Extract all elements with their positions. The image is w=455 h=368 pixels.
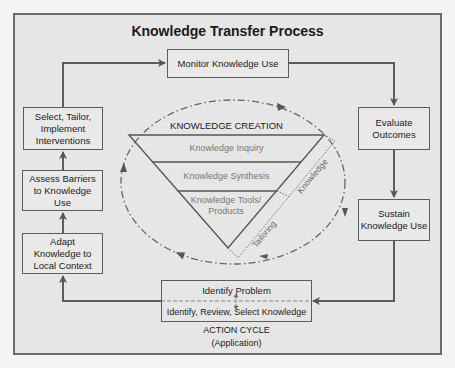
diagram-title: Knowledge Transfer Process <box>0 23 455 39</box>
assess-barriers-box: Assess Barriers to Knowledge Use <box>22 170 103 211</box>
sustain-knowledge-box: Sustain Knowledge Use <box>358 199 430 241</box>
action-cycle-sublabel: (Application) <box>161 338 312 348</box>
evaluate-outcomes-box: Evaluate Outcomes <box>358 107 430 150</box>
adapt-knowledge-box: Adapt Knowledge to Local Context <box>22 233 103 274</box>
action-cycle-label: ACTION CYCLE <box>161 325 312 335</box>
identify-problem-label: Identify Problem <box>162 285 311 297</box>
identify-box: Identify Problem Identify, Review, Selec… <box>161 280 312 322</box>
identify-review-label: Identify, Review, Select Knowledge <box>162 306 311 318</box>
band-knowledge-tools: Knowledge Tools/ Products <box>185 195 267 217</box>
monitor-knowledge-box: Monitor Knowledge Use <box>167 49 289 78</box>
select-tailor-box: Select, Tailor, Implement Interventions <box>23 107 103 150</box>
band-knowledge-synthesis: Knowledge Synthesis <box>160 171 293 182</box>
knowledge-creation-heading: KNOWLEDGE CREATION <box>129 120 324 131</box>
band-knowledge-inquiry: Knowledge Inquiry <box>150 143 303 154</box>
